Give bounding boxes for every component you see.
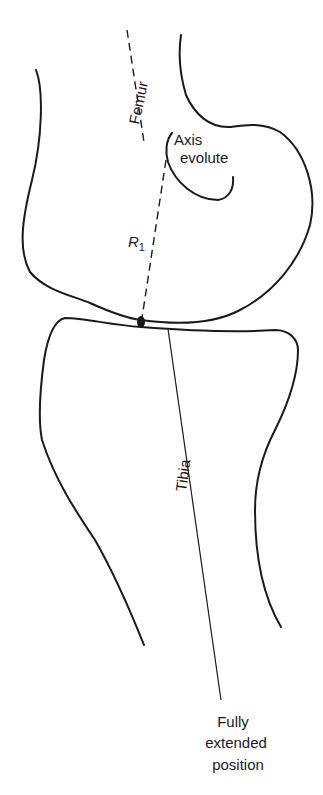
tibia-outline [40,318,144,645]
position-label-line2: extended [205,734,267,751]
r1-label: R1 [128,233,145,253]
r1-main: R [128,233,139,250]
position-label-line3: position [212,756,264,773]
femur-label: Femur [125,80,151,126]
tibia-top-surface [141,327,298,627]
femur-outline [23,35,313,323]
knee-joint-diagram: Femur Axis evolute R1 Tibia Fully extend… [0,0,323,795]
position-label-line1: Fully [217,713,249,730]
contact-point [137,316,145,328]
radius-r1-dashed [142,160,166,318]
tibia-axis-line [168,329,221,700]
axis-evolute-label-line2: evolute [180,149,228,166]
r1-subscript: 1 [139,241,145,253]
axis-evolute-label-line1: Axis [174,131,202,148]
